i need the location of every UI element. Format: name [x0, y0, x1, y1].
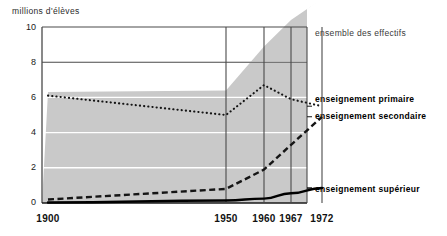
area-ensemble-des-effectifs [42, 0, 322, 203]
label-leader-lines [307, 106, 312, 188]
education-enrollment-chart: millions d'élèves 10 8 6 4 2 0 1900 1950… [0, 0, 447, 236]
plot-area [0, 0, 447, 236]
